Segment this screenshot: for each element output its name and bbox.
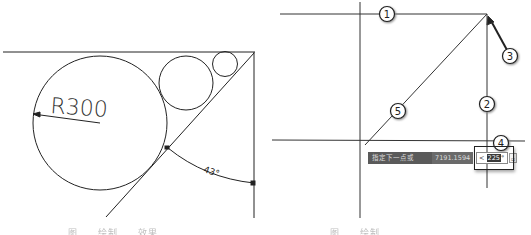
medium-circle — [159, 56, 213, 110]
cad-drawing-canvas: R300 43° 1 2 3 4 5 — [0, 0, 531, 235]
callout-2: 2 — [480, 97, 495, 112]
diagonal-line — [106, 53, 254, 217]
svg-text:1: 1 — [384, 9, 390, 20]
callout-5: 5 — [391, 104, 406, 119]
length-input[interactable]: 7191.1594 — [432, 152, 473, 164]
small-circle — [213, 52, 238, 77]
callout-3: 3 — [503, 49, 518, 64]
left-figure — [3, 52, 255, 219]
pointer-arrow — [490, 19, 507, 50]
right-caption: 图……绘制…… — [330, 226, 400, 235]
svg-text:2: 2 — [484, 99, 490, 110]
highlight-box — [474, 146, 514, 170]
callout-markers: 1 2 3 4 5 — [380, 7, 518, 151]
svg-text:3: 3 — [507, 51, 513, 62]
dimension-text: R300 — [50, 93, 109, 122]
left-caption: 图……绘制……效果 — [68, 226, 158, 235]
prompt-text: 指定下一点或 — [372, 154, 414, 162]
diagonal-line-5 — [365, 14, 487, 145]
callout-1: 1 — [380, 7, 395, 22]
svg-text:5: 5 — [395, 106, 401, 117]
angle-text: 43° — [202, 164, 220, 178]
